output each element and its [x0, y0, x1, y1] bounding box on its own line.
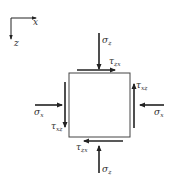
sigma-z-bottom: σz — [99, 146, 112, 175]
tau-xz-right: τxz — [134, 80, 148, 128]
stress-element-diagram: x z σz τzx τxz σx σx — [0, 0, 172, 183]
sigma-x-left: σx — [34, 105, 62, 118]
z-axis-label: z — [13, 38, 19, 48]
x-axis-label: x — [33, 17, 38, 27]
tau-xz-right-label: τxz — [136, 80, 148, 91]
tau-xz-left-label: τxz — [51, 121, 63, 132]
tau-zx-bottom-label: τzx — [76, 142, 88, 153]
sigma-x-left-label: σx — [34, 107, 44, 118]
stress-element-square — [69, 73, 130, 137]
sigma-x-right-label: σx — [154, 107, 164, 118]
tau-xz-left: τxz — [51, 82, 65, 132]
sigma-z-bottom-label: σz — [102, 164, 112, 175]
diagram-svg: x z σz τzx τxz σx σx — [0, 0, 172, 183]
coordinate-axes: x z — [11, 17, 38, 48]
tau-zx-top-label: τzx — [109, 56, 121, 67]
sigma-x-right: σx — [140, 105, 164, 118]
sigma-z-top-label: σz — [102, 35, 112, 46]
